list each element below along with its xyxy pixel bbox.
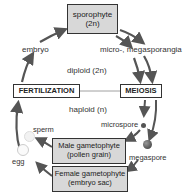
arrow-fertilization-to-embryo <box>22 55 32 82</box>
arrow-sporangia-to-meiosis-1 <box>134 58 140 80</box>
arrow-gametes-to-fertilization <box>16 104 20 150</box>
diploid-label: diploid (2n) <box>67 66 107 75</box>
sporophyte-box: sporophyte (2n) <box>67 4 118 34</box>
microspore-icon <box>141 123 146 128</box>
megaspore-label: megaspore <box>129 153 167 162</box>
arrow-embryo-to-sporophyte <box>40 30 64 42</box>
arrow-microspore-to-male <box>127 130 140 140</box>
arrow-female-to-egg <box>38 164 52 176</box>
sporophyte-ploidy: (2n) <box>85 19 99 28</box>
arrow-meiosis-to-microspore <box>144 100 145 114</box>
meiosis-box: MEIOSIS <box>120 84 162 98</box>
arrow-sporangia-to-meiosis-2 <box>144 56 152 80</box>
arrow-meiosis-to-megaspore <box>150 100 156 138</box>
sperm-icon <box>24 131 35 142</box>
sporangia-label: micro-, megasporangia <box>100 45 182 54</box>
female-gametophyte-box: Female gametophyte (embryo sac) <box>52 166 128 192</box>
haploid-label: haploid (n) <box>69 105 107 114</box>
megaspore-icon <box>143 140 152 149</box>
female-gametophyte-detail: (embryo sac) <box>68 179 112 188</box>
arrow-male-to-sperm <box>38 139 52 147</box>
male-gametophyte-detail: (pollen grain) <box>67 151 111 160</box>
egg-label: egg <box>12 157 25 166</box>
meiosis-label: MEIOSIS <box>125 87 156 96</box>
microspore-label: microspore <box>101 120 138 129</box>
fertilization-box: FERTILIZATION <box>13 84 80 98</box>
sporophyte-label: sporophyte <box>73 10 113 19</box>
embryo-label: embryo <box>22 45 49 54</box>
egg-icon <box>17 144 29 156</box>
male-gametophyte-box: Male gametophyte (pollen grain) <box>52 138 126 164</box>
sperm-label: sperm <box>33 125 54 134</box>
fertilization-label: FERTILIZATION <box>19 87 75 96</box>
